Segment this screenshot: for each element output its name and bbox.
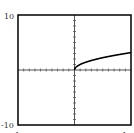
y-min-label: -10 [1, 121, 14, 130]
x-min-label: -10 [12, 131, 25, 133]
x-max-label: 10 [122, 131, 132, 133]
sqrt-curve [75, 53, 132, 70]
y-max-label: 10 [4, 12, 14, 21]
function-graph: 10 -10 -10 10 [0, 0, 134, 133]
